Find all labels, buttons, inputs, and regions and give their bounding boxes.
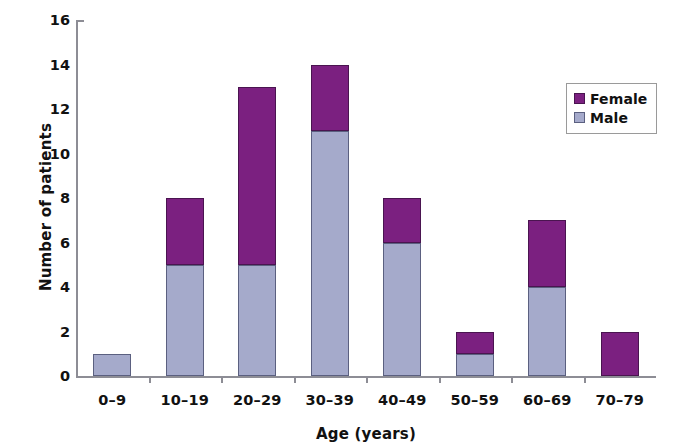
x-axis-tickmark [511, 376, 513, 383]
bar-segment-male[interactable] [528, 287, 566, 376]
bar-group-50-59[interactable] [439, 20, 512, 376]
y-axis-tick-10: 10 [30, 146, 70, 162]
y-axis-tick-6: 6 [30, 235, 70, 251]
x-axis-title: Age (years) [76, 425, 656, 443]
x-axis-tickmark [149, 376, 151, 383]
bar-segment-male[interactable] [383, 243, 421, 377]
bar-segment-male[interactable] [311, 131, 349, 376]
bar-group-10-19[interactable] [149, 20, 222, 376]
bar-segment-male[interactable] [238, 265, 276, 376]
y-axis-tick-16: 16 [30, 12, 70, 28]
bar-group-70-79[interactable] [584, 20, 657, 376]
bar-group-40-49[interactable] [366, 20, 439, 376]
x-axis-tickmark [439, 376, 441, 383]
bar-segment-female[interactable] [601, 332, 639, 377]
bar-chart-figure: Number of patients 0246810121416 Age (ye… [0, 0, 675, 444]
stacked-bar[interactable] [311, 65, 349, 377]
chart-legend: FemaleMale [566, 83, 657, 134]
plot-area: Age (years) 0–910–1920–2930–3940–4950–59… [76, 20, 656, 376]
bar-series-container [76, 20, 656, 376]
stacked-bar[interactable] [166, 198, 204, 376]
y-axis-tick-0: 0 [30, 368, 70, 384]
legend-label: Female [590, 91, 647, 107]
bar-segment-female[interactable] [311, 65, 349, 132]
bar-segment-male[interactable] [93, 354, 131, 376]
stacked-bar[interactable] [601, 332, 639, 377]
x-axis-tickmark [294, 376, 296, 383]
y-axis-tick-4: 4 [30, 279, 70, 295]
x-axis-tickmark [584, 376, 586, 383]
bar-segment-female[interactable] [166, 198, 204, 265]
bar-group-20-29[interactable] [221, 20, 294, 376]
stacked-bar[interactable] [93, 354, 131, 376]
legend-item-male[interactable]: Male [574, 108, 647, 127]
legend-label: Male [590, 110, 628, 126]
y-axis-tick-14: 14 [30, 57, 70, 73]
y-axis-tick-12: 12 [30, 101, 70, 117]
bar-group-60-69[interactable] [511, 20, 584, 376]
bar-group-0-9[interactable] [76, 20, 149, 376]
stacked-bar[interactable] [456, 332, 494, 377]
bar-segment-female[interactable] [238, 87, 276, 265]
bar-group-30-39[interactable] [294, 20, 367, 376]
x-axis-tickmark [221, 376, 223, 383]
stacked-bar[interactable] [528, 220, 566, 376]
bar-segment-female[interactable] [528, 220, 566, 287]
stacked-bar[interactable] [238, 87, 276, 376]
y-axis-tick-8: 8 [30, 190, 70, 206]
legend-swatch-icon [574, 112, 585, 123]
legend-item-female[interactable]: Female [574, 89, 647, 108]
x-axis-tick-label: 70–79 [575, 392, 665, 408]
y-axis-tick-labels: 0246810121416 [30, 0, 70, 444]
legend-swatch-icon [574, 93, 585, 104]
bar-segment-female[interactable] [383, 198, 421, 243]
bar-segment-female[interactable] [456, 332, 494, 354]
stacked-bar[interactable] [383, 198, 421, 376]
bar-segment-male[interactable] [456, 354, 494, 376]
bar-segment-male[interactable] [166, 265, 204, 376]
x-axis-tickmark [366, 376, 368, 383]
y-axis-tick-2: 2 [30, 324, 70, 340]
